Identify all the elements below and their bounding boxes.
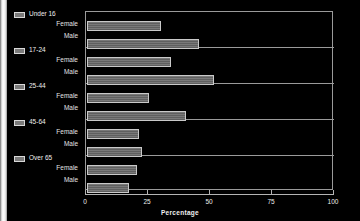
bar-group-45-64 (86, 128, 334, 158)
chart-screenshot: Under 16 Female Male 17-24 Female Male 2… (0, 0, 360, 221)
series-label-under-16-female: Female (0, 20, 78, 27)
x-axis-tick-label-75: 75 (267, 198, 274, 205)
bar-25-44-male[interactable] (87, 111, 186, 121)
bar-row-female (86, 128, 334, 140)
category-swatch-45-64 (14, 120, 25, 126)
bar-under-16-female[interactable] (87, 21, 161, 31)
x-axis-tick (209, 190, 210, 195)
series-label-over-65-male: Male (0, 176, 78, 183)
series-label-25-44-female: Female (0, 92, 78, 99)
bar-group-under-16 (86, 20, 334, 50)
x-axis-tick (85, 190, 86, 195)
category-label-17-24: 17-24 (29, 46, 46, 53)
bar-row-female (86, 20, 334, 32)
bar-group-25-44 (86, 92, 334, 122)
category-label-25-44: 25-44 (29, 82, 46, 89)
category-swatch-over-65 (14, 156, 25, 162)
x-axis-tick-label-25: 25 (143, 198, 150, 205)
bar-row-female (86, 164, 334, 176)
bar-over-65-female[interactable] (87, 165, 137, 175)
x-axis-tick-label-0: 0 (83, 198, 87, 205)
bar-45-64-female[interactable] (87, 129, 139, 139)
bar-group-17-24 (86, 56, 334, 86)
category-swatch-17-24 (14, 48, 25, 54)
x-axis-tick-label-100: 100 (328, 198, 339, 205)
series-label-17-24-female: Female (0, 56, 78, 63)
bar-45-64-male[interactable] (87, 147, 142, 157)
series-label-25-44-male: Male (0, 104, 78, 111)
category-swatch-25-44 (14, 84, 25, 90)
bar-17-24-female[interactable] (87, 57, 171, 67)
series-label-under-16-male: Male (0, 32, 78, 39)
x-axis-tick (147, 190, 148, 195)
x-axis-tick (271, 190, 272, 195)
bar-row-male (86, 146, 334, 158)
series-label-over-65-female: Female (0, 164, 78, 171)
bar-25-44-female[interactable] (87, 93, 149, 103)
bar-row-male (86, 38, 334, 50)
bar-group-over-65 (86, 164, 334, 194)
bar-under-16-male[interactable] (87, 39, 199, 49)
bar-row-male (86, 182, 334, 194)
bar-row-male (86, 74, 334, 86)
bar-over-65-male[interactable] (87, 183, 129, 193)
series-label-45-64-male: Male (0, 140, 78, 147)
category-label-45-64: 45-64 (29, 118, 46, 125)
plot-frame (85, 11, 333, 190)
series-label-45-64-female: Female (0, 128, 78, 135)
x-axis-title: Percentage (0, 209, 360, 216)
series-label-17-24-male: Male (0, 68, 78, 75)
bar-row-female (86, 92, 334, 104)
category-label-under-16: Under 16 (29, 10, 56, 17)
category-swatch-under-16 (14, 12, 25, 18)
bar-17-24-male[interactable] (87, 75, 214, 85)
x-axis-tick-label-50: 50 (205, 198, 212, 205)
bar-row-male (86, 110, 334, 122)
bar-row-female (86, 56, 334, 68)
x-axis-tick (333, 190, 334, 195)
bar-chart: Under 16 Female Male 17-24 Female Male 2… (0, 0, 360, 221)
category-label-over-65: Over 65 (29, 154, 52, 161)
